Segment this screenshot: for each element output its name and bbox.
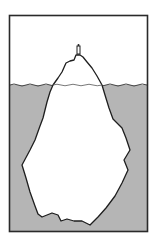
peak-figure-head (78, 44, 80, 46)
peak-figure-icon (77, 46, 80, 54)
